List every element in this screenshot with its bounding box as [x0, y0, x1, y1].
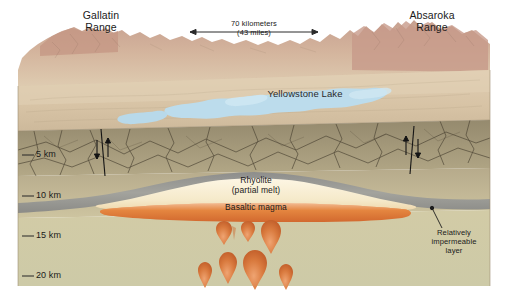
- impermeable-layer-label: Relatively impermeable layer: [414, 228, 494, 255]
- geologic-cross-section-figure: Gallatin Range Absaroka Range 70 kilomet…: [0, 0, 508, 304]
- gallatin-range-label: Gallatin Range: [62, 10, 140, 34]
- rhyolite-label: Rhyolite (partial melt): [200, 176, 312, 195]
- yellowstone-lake-label: Yellowstone Lake: [250, 89, 360, 100]
- absaroka-range-label: Absaroka Range: [388, 10, 476, 34]
- depth-tick-label-15km: 15 km: [36, 230, 86, 240]
- basaltic-magma-label: Basaltic magma: [200, 203, 312, 213]
- depth-tick-label-5km: 5 km: [36, 149, 86, 159]
- depth-tick-label-10km: 10 km: [36, 190, 86, 200]
- scale-bar-secondary-label: (43 miles): [214, 29, 294, 38]
- depth-tick-label-20km: 20 km: [36, 270, 86, 280]
